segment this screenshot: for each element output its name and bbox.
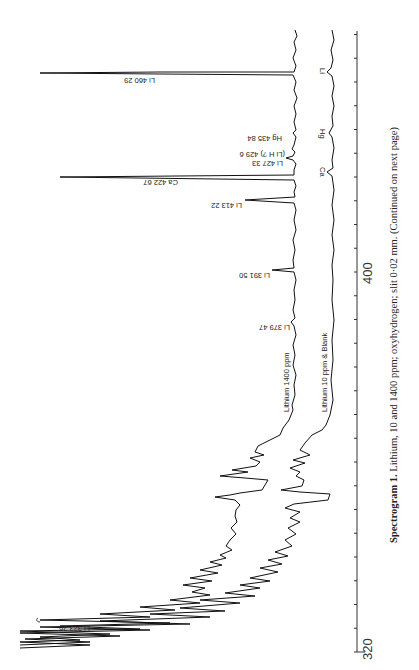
- mark-li: Li: [318, 68, 327, 74]
- peak-label-ca-422: Ca 422 67: [143, 178, 178, 187]
- trace-lithium-10ppm-blank: [20, 30, 334, 645]
- peak-label-li-391: Li 391 50: [239, 271, 270, 280]
- peak-label-li-323: Li 323 26: [59, 624, 90, 633]
- tick-label-320: 320: [360, 638, 375, 660]
- tick-label-400: 400: [360, 262, 375, 284]
- trace-label-10ppm-blank: Lithium 10 ppm & Blank: [320, 333, 329, 412]
- wavelength-axis: 320 400: [354, 31, 375, 660]
- trace-label-1400ppm: Lithium 1400 ppm: [282, 352, 291, 412]
- peak-label-li-427: Li 427 33: [252, 159, 283, 168]
- lower-trace-marks: Li Hg Ca: [318, 68, 327, 177]
- peak-label-lih-429: (Li H ?) 429 6: [240, 150, 285, 159]
- peak-label-hg-435: Hg 435 84: [247, 134, 282, 143]
- peak-label-li-460: Li 460 29: [124, 76, 155, 85]
- spectrogram-plot: 320 400 Lithium 1400 ppm Lithium 10 ppm …: [0, 0, 419, 670]
- peak-labels: Li 460 29 Hg 435 84 (Li H ?) 429 6 Li 42…: [37, 76, 290, 633]
- trace-lithium-1400ppm: [20, 30, 297, 648]
- caption-title: Spectrogram 1.: [388, 474, 399, 543]
- mark-hg: Hg: [318, 129, 327, 139]
- peak-label-li-413: Li 413 22: [211, 201, 242, 210]
- mark-ca: Ca: [318, 167, 327, 177]
- caption-text: Lithium, 10 and 1400 ppm; oxyhydrogen; s…: [388, 127, 399, 472]
- peak-label-li-379: Li 379 47: [259, 323, 290, 332]
- figure-caption: Spectrogram 1. Lithium, 10 and 1400 ppm;…: [388, 25, 399, 645]
